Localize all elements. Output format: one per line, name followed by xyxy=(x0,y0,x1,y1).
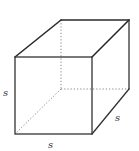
bottom-edge-label: s xyxy=(48,139,53,150)
bottom-right-depth-edge xyxy=(92,89,129,134)
cube-diagram: s s s xyxy=(0,0,139,151)
depth-edge-label: s xyxy=(115,112,120,123)
cube-svg: s s s xyxy=(0,0,139,151)
top-left-depth-edge xyxy=(15,20,61,57)
hidden-bottom-left-depth-edge xyxy=(15,89,61,134)
left-edge-label: s xyxy=(3,87,8,98)
top-right-depth-edge xyxy=(92,20,129,57)
